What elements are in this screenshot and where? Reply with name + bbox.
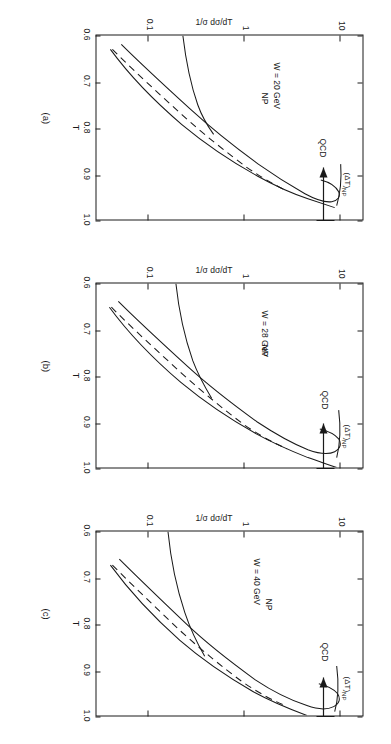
xtick-c-1 [96, 578, 101, 579]
xtick-a-2 [96, 128, 101, 129]
ytick-b-2 [147, 283, 148, 289]
xlabel-c-3: 0.9 [81, 658, 91, 682]
xtick-a-3 [96, 175, 101, 176]
ytick-b-0 [339, 283, 340, 289]
xtick-b-2 [96, 376, 101, 377]
xlabel-c-2: 0.8 [81, 611, 91, 635]
ylabel-b-0: 10 [336, 252, 346, 278]
curve-qcd-a [112, 49, 287, 190]
ytick-r-a-1 [243, 214, 244, 220]
xtick-top-b-1 [358, 330, 363, 331]
delta-t-sub-a: NP [340, 188, 346, 196]
xtick-b-3 [96, 423, 101, 424]
energy-label-a: W = 20 GeV [271, 62, 281, 109]
xlabel-b-3: 0.9 [81, 410, 91, 434]
ytick-r-a-0 [339, 214, 340, 220]
delta-t-sub-b: NP [340, 440, 346, 448]
curve-label-qcd-a: QCD [317, 138, 327, 157]
panel-tag-c: (c) [40, 608, 51, 619]
ytick-r-c-1 [243, 710, 244, 716]
ylabel-c-2: 0.1 [144, 500, 154, 526]
plot-box-a [95, 34, 363, 220]
panel-tag-a: (a) [40, 112, 51, 124]
ytick-c-0 [339, 531, 340, 537]
delta-t-arrow-a [306, 155, 336, 223]
xlabel-a-1: 0.7 [81, 69, 91, 93]
xlabel-a-2: 0.8 [81, 115, 91, 139]
ytick-r-c-0 [339, 710, 340, 716]
energy-label-c: W = 40 GeV [251, 558, 261, 605]
rotated-figure-canvas: 0.6 0.7 0.8 0.9 1.0 T 10 1 0.1 1/σ dσ/dT… [0, 0, 391, 744]
curve-top-cap-a [336, 164, 340, 206]
curve-label-np-a: NP [259, 92, 269, 104]
ytick-r-c-2 [147, 710, 148, 716]
delta-t-arrow-b [306, 411, 336, 471]
xtick-top-c-1 [358, 578, 363, 579]
curve-np-upper-a [110, 49, 334, 207]
delta-t-arrow-c [306, 665, 336, 719]
xtick-a-1 [96, 82, 101, 83]
ylabel-a-1: 1 [240, 4, 250, 30]
ytick-c-2 [147, 531, 148, 537]
y-axis-title-c: 1/σ dσ/dT [195, 512, 232, 522]
xtick-top-a-2 [358, 128, 363, 129]
xtick-top-a-3 [358, 175, 363, 176]
xlabel-b-2: 0.8 [81, 363, 91, 387]
xtick-top-a-1 [358, 82, 363, 83]
ytick-r-b-1 [243, 462, 244, 468]
xtick-c-4 [96, 716, 101, 717]
xtick-a-0 [96, 35, 101, 36]
xtick-top-b-3 [358, 423, 363, 424]
ytick-a-0 [339, 35, 340, 41]
xtick-c-3 [96, 671, 101, 672]
ylabel-c-0: 10 [336, 500, 346, 526]
curve-np-upper-b [109, 307, 336, 467]
xtick-top-b-0 [358, 283, 363, 284]
ylabel-a-2: 0.1 [144, 4, 154, 30]
curve-flat-tail-c [167, 531, 204, 656]
plot-box-c [95, 530, 363, 716]
xtick-a-4 [96, 220, 101, 221]
ytick-a-2 [147, 35, 148, 41]
plot-box-b [95, 282, 363, 468]
xlabel-c-0: 0.6 [81, 518, 91, 542]
panel-b: 0.6 0.7 0.8 0.9 1.0 T 10 1 0.1 1/σ dσ/dT… [0, 248, 391, 496]
y-axis-title-a: 1/σ dσ/dT [195, 16, 232, 26]
curve-flat-tail-a [182, 35, 213, 134]
panel-c: 0.6 0.7 0.8 0.9 1.0 T 10 1 0.1 1/σ dσ/dT… [0, 496, 391, 744]
ylabel-b-1: 1 [240, 252, 250, 278]
ytick-a-1 [243, 35, 244, 41]
xtick-top-a-4 [358, 220, 363, 221]
xlabel-b-4: 1.0 [81, 455, 91, 479]
xtick-top-b-4 [358, 468, 363, 469]
x-axis-title-c: T [70, 608, 80, 638]
xlabel-a-0: 0.6 [81, 22, 91, 46]
delta-t-main-a: (ΔT) [342, 172, 351, 188]
xlabel-c-4: 1.0 [81, 703, 91, 727]
ylabel-c-1: 1 [240, 500, 250, 526]
xlabel-b-1: 0.7 [81, 317, 91, 341]
x-axis-title-b: T [70, 360, 80, 390]
xlabel-b-0: 0.6 [81, 270, 91, 294]
xlabel-c-1: 0.7 [81, 565, 91, 589]
curve-flat-tail-b [175, 283, 211, 398]
xtick-top-c-0 [358, 531, 363, 532]
xtick-top-c-4 [358, 716, 363, 717]
xtick-top-c-3 [358, 671, 363, 672]
ylabel-b-2: 0.1 [144, 252, 154, 278]
curve-label-np-c: NP [263, 598, 273, 610]
y-axis-title-b: 1/σ dσ/dT [195, 264, 232, 274]
delta-t-label-b: (ΔT)NP [340, 424, 351, 448]
xtick-b-4 [96, 468, 101, 469]
delta-t-main-b: (ΔT) [342, 424, 351, 440]
xtick-b-1 [96, 330, 101, 331]
xtick-c-2 [96, 624, 101, 625]
xlabel-a-4: 1.0 [81, 207, 91, 231]
panel-tag-b: (b) [40, 360, 51, 372]
ytick-b-1 [243, 283, 244, 289]
panel-a: 0.6 0.7 0.8 0.9 1.0 T 10 1 0.1 1/σ dσ/dT… [0, 0, 391, 248]
ytick-r-b-2 [147, 462, 148, 468]
delta-t-sub-c: NP [340, 692, 346, 700]
curve-label-qcd-b: QCD [319, 390, 329, 409]
xtick-top-b-2 [358, 376, 363, 377]
